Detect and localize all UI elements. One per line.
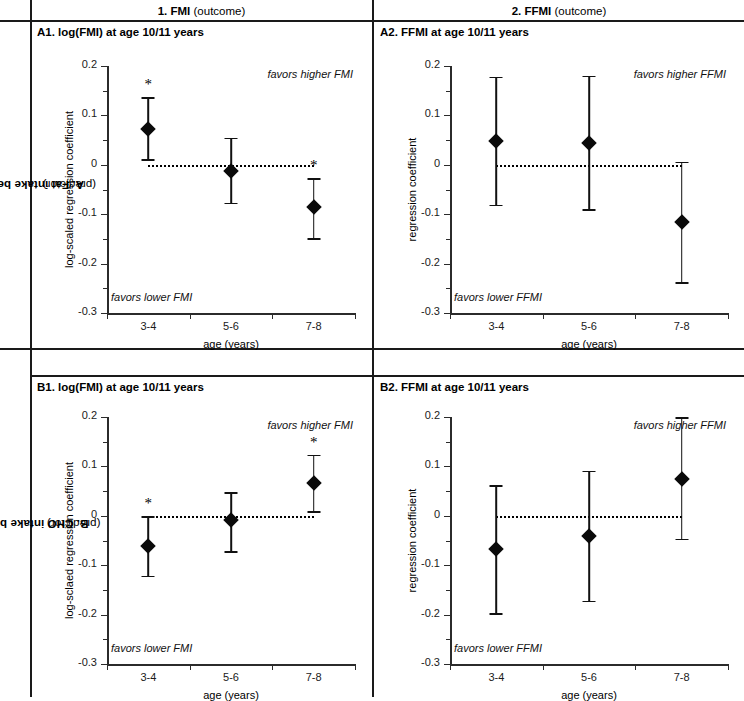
- x-tick-label: 3-4: [466, 321, 526, 332]
- x-tick: [450, 664, 451, 670]
- y-axis-title: log-scaled regression coefficient: [63, 66, 75, 313]
- x-tick: [355, 313, 356, 319]
- y-tick-minor: [446, 91, 450, 92]
- panel-b2: B2. FFMI at age 10/11 years0.20.10-0.1-0…: [374, 377, 744, 697]
- x-tick: [450, 313, 451, 319]
- data-point-marker: [306, 200, 322, 216]
- y-tick-major: [101, 466, 107, 467]
- y-tick-major: [444, 417, 450, 418]
- annotation-favors-lower: favors lower FFMI: [454, 642, 542, 654]
- x-tick-label: 7-8: [652, 672, 712, 683]
- x-tick-label: 7-8: [284, 321, 344, 332]
- error-bar-cap-lower: [675, 539, 688, 541]
- error-bar-cap-lower: [225, 551, 238, 553]
- data-point-marker: [489, 133, 505, 149]
- data-point-marker: [674, 471, 690, 487]
- y-tick-major: [444, 516, 450, 517]
- x-tick: [272, 664, 273, 670]
- column-header-fmi-qualifier: (outcome): [194, 5, 246, 17]
- x-tick: [355, 664, 356, 670]
- y-tick-minor: [446, 639, 450, 640]
- y-axis-title: regression coefficient: [406, 417, 418, 664]
- error-bar-cap-upper: [225, 138, 238, 140]
- column-header-ffmi-qualifier: (outcome): [555, 5, 607, 17]
- y-tick-major: [101, 165, 107, 166]
- error-bar-cap-upper: [225, 492, 238, 494]
- x-tick-label: 3-4: [118, 672, 178, 683]
- annotation-favors-lower: favors lower FFMI: [454, 291, 542, 303]
- y-tick-minor: [103, 140, 107, 141]
- y-tick-major: [101, 66, 107, 67]
- annotation-favors-higher: favors higher FMI: [267, 419, 353, 431]
- x-axis-title: age (years): [151, 689, 311, 701]
- panel-title-b2: B2. FFMI at age 10/11 years: [380, 381, 529, 393]
- y-tick-major: [444, 264, 450, 265]
- y-tick-minor: [446, 288, 450, 289]
- x-axis-line-a2: [450, 313, 728, 315]
- x-tick: [107, 664, 108, 670]
- y-tick-major: [444, 66, 450, 67]
- x-tick-label: 3-4: [118, 321, 178, 332]
- data-point-marker: [489, 542, 505, 558]
- y-tick-minor: [103, 190, 107, 191]
- y-tick-minor: [103, 91, 107, 92]
- error-bar-cap-upper: [307, 178, 320, 180]
- error-bar-cap-lower: [142, 159, 155, 161]
- error-bar-cap-upper: [142, 97, 155, 99]
- x-axis-title: age (years): [509, 689, 669, 701]
- x-axis-line-b1: [107, 664, 355, 666]
- data-point-marker: [581, 135, 597, 151]
- y-tick-major: [444, 165, 450, 166]
- y-tick-minor: [103, 442, 107, 443]
- error-bar-cap-upper: [490, 77, 503, 79]
- y-tick-minor: [446, 190, 450, 191]
- x-axis-line-b2: [450, 664, 728, 666]
- annotation-favors-higher: favors higher FMI: [267, 68, 353, 80]
- y-tick-minor: [446, 541, 450, 542]
- column-header-fmi-number: 1.: [158, 5, 168, 17]
- y-tick-major: [444, 615, 450, 616]
- x-tick-label: 7-8: [652, 321, 712, 332]
- y-tick-minor: [103, 288, 107, 289]
- significance-star: *: [310, 435, 318, 450]
- error-bar-cap-lower: [675, 282, 688, 284]
- significance-star: *: [145, 496, 153, 511]
- error-bar-cap-upper: [675, 417, 688, 419]
- y-tick-minor: [103, 491, 107, 492]
- y-tick-major: [101, 615, 107, 616]
- y-tick-major: [101, 115, 107, 116]
- y-axis-line-b2: [450, 417, 452, 664]
- y-axis-title: log-sclaed regression coefficient: [63, 417, 75, 664]
- row-label-b: B. CHO intake before 11 a.m. (predictor): [0, 350, 30, 697]
- panel-a2: A2. FFMI at age 10/11 years0.20.10-0.1-0…: [374, 22, 744, 348]
- x-tick-label: 5-6: [559, 321, 619, 332]
- plot-area-b2: 0.20.10-0.1-0.2-0.3favors higher FFMIfav…: [450, 417, 728, 664]
- panel-a1: A1. log(FMI) at age 10/11 years0.20.10-0…: [31, 22, 372, 348]
- y-tick-minor: [103, 239, 107, 240]
- y-axis-line-a1: [107, 66, 109, 313]
- column-header-ffmi-name: FFMI: [524, 5, 551, 17]
- error-bar-cap-lower: [307, 238, 320, 240]
- data-point-marker: [141, 121, 157, 137]
- annotation-favors-higher: favors higher FFMI: [634, 419, 726, 431]
- y-tick-major: [444, 565, 450, 566]
- y-tick-major: [101, 516, 107, 517]
- panel-b1: B1. log(FMI) at age 10/11 years0.20.10-0…: [31, 377, 372, 697]
- y-tick-major: [444, 214, 450, 215]
- x-tick-label: 5-6: [201, 672, 261, 683]
- y-tick-minor: [446, 442, 450, 443]
- error-bar-cap-lower: [142, 576, 155, 578]
- y-tick-minor: [446, 590, 450, 591]
- data-point-marker: [306, 475, 322, 491]
- plot-area-a2: 0.20.10-0.1-0.2-0.3favors higher FFMIfav…: [450, 66, 728, 313]
- column-header-fmi-name: FMI: [171, 5, 191, 17]
- error-bar-cap-lower: [583, 209, 596, 211]
- y-tick-minor: [446, 140, 450, 141]
- y-tick-major: [101, 417, 107, 418]
- x-tick: [190, 313, 191, 319]
- y-tick-major: [444, 115, 450, 116]
- error-bar-cap-upper: [583, 76, 596, 78]
- y-tick-minor: [103, 541, 107, 542]
- x-axis-title: age (years): [151, 338, 311, 350]
- error-bar-cap-lower: [307, 511, 320, 513]
